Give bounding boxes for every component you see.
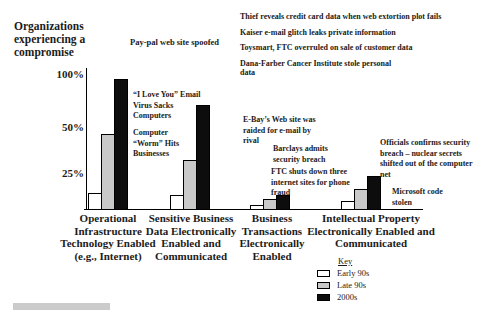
bar-2000s-cat0: [114, 79, 128, 210]
annotation-worm: Computer “Worm” Hits Businesses: [133, 128, 179, 160]
legend-title: Key: [338, 256, 369, 266]
news-item: Toysmart, FTC overruled on sale of custo…: [240, 43, 441, 53]
legend-row: Late 90s: [317, 280, 369, 290]
chart-title: Organizations experiencing a compromise: [14, 20, 85, 59]
annotation-barclays: Barclays admits security breach: [273, 144, 328, 165]
bar-early-90s-cat1: [170, 195, 184, 210]
legend-row: Early 90s: [317, 268, 369, 278]
legend-swatch: [317, 282, 330, 289]
news-item: Dana-Farber Cancer Institute stole perso…: [240, 59, 441, 78]
annotation-microsoft: Microsoft code stolen: [392, 187, 443, 208]
legend-swatch: [317, 294, 330, 301]
bar-late-90s-cat1: [183, 160, 197, 210]
bar-early-90s-cat0: [88, 193, 102, 210]
y-axis-label: 100%: [38, 68, 84, 80]
news-item: Thief reveals credit card data when web …: [240, 12, 441, 22]
bar-late-90s-cat3: [354, 189, 368, 210]
bar-early-90s-cat3: [341, 201, 355, 210]
bar-late-90s-cat2: [263, 199, 277, 210]
annotation-paypal: Pay-pal web site spoofed: [130, 37, 219, 48]
legend-label: Late 90s: [337, 280, 366, 290]
y-axis-label: 25%: [38, 167, 84, 179]
legend-swatch: [317, 270, 330, 277]
legend-label: Early 90s: [337, 268, 369, 278]
annotation-ebay: E-Bay’s Web site was raided for e-mail b…: [243, 115, 316, 147]
legend-label: 2000s: [337, 292, 357, 302]
redaction-strip: [13, 303, 110, 310]
slide-chart: Organizations experiencing a compromise …: [0, 0, 480, 314]
annotation-love-virus: “I Love You” Email Virus Sacks Computers: [133, 90, 201, 122]
legend: Key Early 90sLate 90s2000s: [317, 256, 369, 302]
y-axis-label: 50%: [38, 121, 84, 133]
news-item: Kaiser e-mail glitch leaks private infor…: [240, 28, 441, 38]
legend-rows: Early 90sLate 90s2000s: [317, 268, 369, 302]
bar-2000s-cat3: [367, 176, 381, 210]
news-list: Thief reveals credit card data when web …: [240, 12, 441, 84]
legend-row: 2000s: [317, 292, 369, 302]
bar-late-90s-cat0: [101, 134, 115, 210]
category-label-3: Intellectual Property Electronically Ena…: [281, 212, 461, 250]
annotation-ftc: FTC shuts down three internet sites for …: [271, 167, 350, 199]
annotation-officials: Officials confirms security breach – nuc…: [380, 138, 472, 180]
y-axis-line: [86, 68, 87, 209]
bar-early-90s-cat2: [250, 205, 264, 210]
